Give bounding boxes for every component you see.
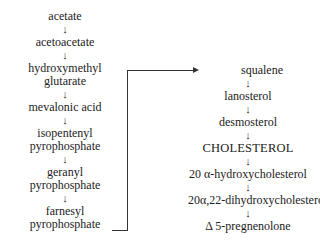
connector-vertical bbox=[127, 70, 128, 231]
node-acetate: acetate bbox=[10, 10, 120, 23]
node-cholesterol: CHOLESTEROL bbox=[188, 142, 308, 155]
left-pathway-column: acetate ↓ acetoacetate ↓ hydroxymethyl g… bbox=[10, 10, 120, 231]
node-mevalonic-acid: mevalonic acid bbox=[10, 101, 120, 114]
node-20-alpha-22-dihydroxycholesterol: 20α,22-dihydroxycholesterol bbox=[188, 194, 308, 207]
node-geranyl-pyrophosphate: geranyl pyrophosphate bbox=[10, 166, 120, 192]
node-desmosterol: desmosterol bbox=[188, 116, 308, 129]
node-farnesyl-pyrophosphate: farnesyl pyrophosphate bbox=[10, 205, 120, 231]
connector-horizontal-bottom bbox=[112, 230, 128, 231]
node-20-alpha-hydroxycholesterol: 20 α-hydroxycholesterol bbox=[188, 168, 308, 181]
node-lanosterol: lanosterol bbox=[188, 90, 308, 103]
connector-horizontal-top bbox=[127, 70, 194, 71]
node-delta-5-pregnenolone: Δ 5-pregnenolone bbox=[188, 220, 308, 233]
right-pathway-column: squalene ↓ lanosterol ↓ desmosterol ↓ CH… bbox=[188, 64, 308, 233]
node-squalene: squalene bbox=[188, 64, 308, 77]
node-acetoacetate: acetoacetate bbox=[10, 36, 120, 49]
node-hydroxymethyl-glutarate: hydroxymethyl glutarate bbox=[10, 62, 120, 88]
node-isopentenyl-pyrophosphate: isopentenyl pyrophosphate bbox=[10, 127, 120, 153]
